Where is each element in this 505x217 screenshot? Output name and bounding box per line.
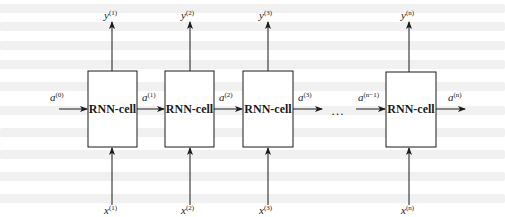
svg-text:a(n): a(n) xyxy=(448,91,462,103)
output-label: y(n) xyxy=(400,9,415,21)
cell-label: RNN-cell xyxy=(387,102,435,116)
hidden-state-a1: a(1) xyxy=(137,91,164,109)
input-label: x(n) xyxy=(400,204,415,216)
rnn-cell-n: RNN-cell y(n) x(n) xyxy=(386,9,436,216)
svg-text:a(n−1): a(n−1) xyxy=(358,91,380,103)
output-label: y(1) xyxy=(103,9,118,21)
output-label: y(3) xyxy=(258,9,273,21)
rnn-diagram: RNN-cell y(1) x(1) RNN-cell y(2) x(2) RN… xyxy=(0,0,505,217)
svg-text:a(3): a(3) xyxy=(298,91,312,103)
hidden-state-a0: a(0) xyxy=(50,91,87,109)
cell-label: RNN-cell xyxy=(244,102,292,116)
output-label: y(2) xyxy=(180,9,195,21)
rnn-cell-1: RNN-cell y(1) x(1) xyxy=(88,9,137,216)
input-label: x(2) xyxy=(180,204,195,216)
input-label: x(3) xyxy=(258,204,273,216)
input-label: x(1) xyxy=(103,204,118,216)
hidden-state-a3: a(3) xyxy=(293,91,322,109)
svg-text:a(0): a(0) xyxy=(50,91,64,103)
ellipsis: … xyxy=(331,103,344,118)
svg-text:a(2): a(2) xyxy=(219,91,233,103)
cell-label: RNN-cell xyxy=(166,102,214,116)
rnn-cell-3: RNN-cell y(3) x(3) xyxy=(243,9,293,216)
hidden-state-an-1: a(n−1) xyxy=(356,91,385,109)
hidden-state-an: a(n) xyxy=(436,91,465,109)
hidden-state-a2: a(2) xyxy=(214,91,242,109)
cell-label: RNN-cell xyxy=(89,102,137,116)
svg-text:a(1): a(1) xyxy=(142,91,156,103)
rnn-cell-2: RNN-cell y(2) x(2) xyxy=(165,9,214,216)
